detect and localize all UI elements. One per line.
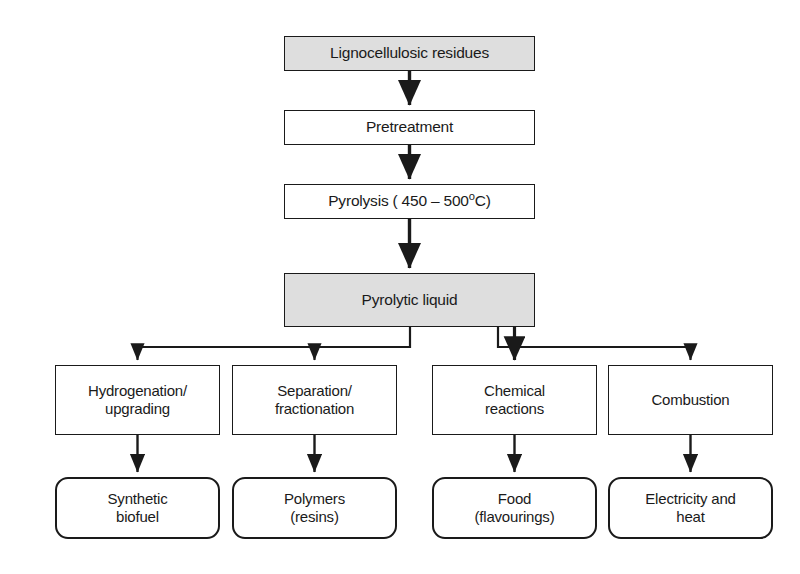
node-pretreatment-label: Pretreatment <box>362 118 457 137</box>
node-product-electricity-heat: Electricity and heat <box>608 477 773 539</box>
node-product-food: Food (flavourings) <box>432 477 597 539</box>
node-stage-chemical-reactions: Chemical reactions <box>432 365 597 435</box>
node-stage-hydrogenation: Hydrogenation/ upgrading <box>55 365 220 435</box>
node-stage-separation: Separation/ fractionation <box>232 365 397 435</box>
node-pyrolysis-value: 500 <box>439 192 468 209</box>
node-stage-chemical-reactions-label: Chemical reactions <box>480 382 549 419</box>
node-product-polymers-label: Polymers (resins) <box>280 490 349 527</box>
node-product-polymers: Polymers (resins) <box>232 477 397 539</box>
node-product-electricity-heat-label: Electricity and heat <box>641 490 739 527</box>
node-stage-separation-label: Separation/ fractionation <box>271 382 358 419</box>
node-pyrolytic-liquid: Pyrolytic liquid <box>284 273 535 327</box>
connector-branch-right-rail <box>498 327 690 347</box>
flowchart-canvas: Lignocellulosic residues Pretreatment Py… <box>0 0 800 574</box>
node-stage-combustion-label: Combustion <box>647 391 733 409</box>
node-pyrolysis: Pyrolysis ( 450 – 500oC) <box>284 184 535 219</box>
node-pretreatment: Pretreatment <box>284 110 535 145</box>
connector-branch-left-rail <box>137 327 410 347</box>
node-product-synthetic-biofuel-label: Synthetic biofuel <box>104 490 172 527</box>
node-product-synthetic-biofuel: Synthetic biofuel <box>55 477 220 539</box>
node-stage-hydrogenation-label: Hydrogenation/ upgrading <box>84 382 191 419</box>
node-stage-combustion: Combustion <box>608 365 773 435</box>
node-feedstock-label: Lignocellulosic residues <box>326 44 493 63</box>
node-pyrolysis-prefix: Pyrolysis ( 450 <box>328 192 431 209</box>
node-pyrolysis-suffix: C) <box>475 192 491 209</box>
node-product-food-label: Food (flavourings) <box>471 490 559 527</box>
node-pyrolysis-label: Pyrolysis ( 450 – 500oC) <box>324 192 495 211</box>
node-feedstock: Lignocellulosic residues <box>284 36 535 71</box>
node-pyrolytic-liquid-label: Pyrolytic liquid <box>358 291 462 310</box>
